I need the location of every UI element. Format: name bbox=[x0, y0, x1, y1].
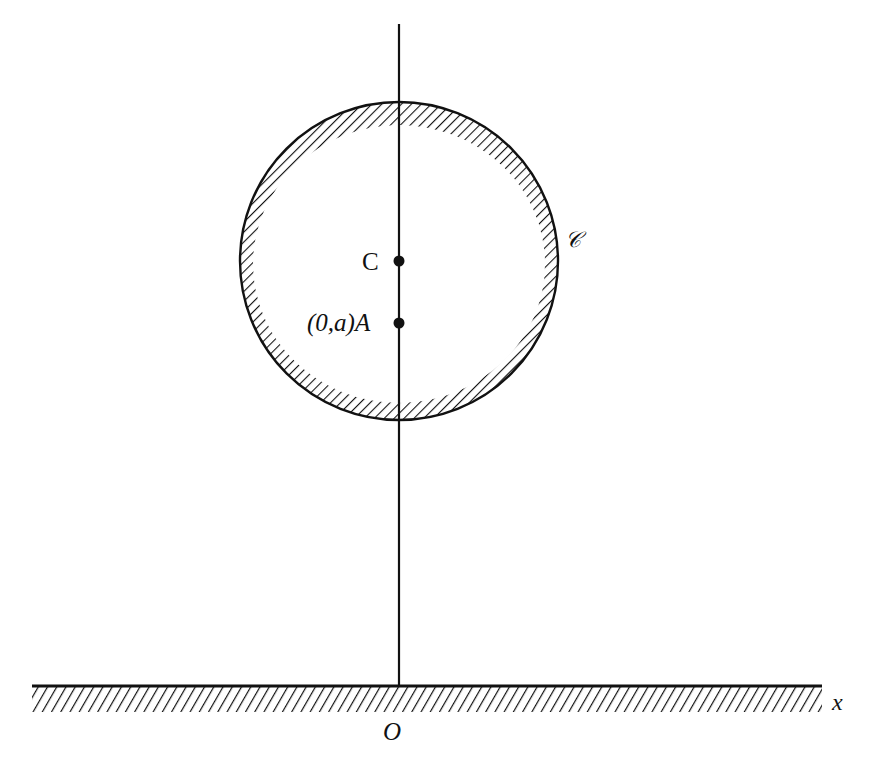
point-a-dot bbox=[394, 318, 405, 329]
label-point-a: (0,a)A bbox=[307, 309, 371, 337]
label-center-c: C bbox=[362, 248, 379, 275]
label-x-axis: x bbox=[831, 689, 843, 715]
point-c-dot bbox=[394, 256, 405, 267]
label-origin: O bbox=[383, 718, 401, 745]
diagram-canvas: C (0,a)A 𝒞 x O bbox=[0, 0, 877, 781]
label-curve: 𝒞 bbox=[565, 227, 587, 252]
label-point-a-name: A bbox=[353, 309, 371, 336]
ground-boundary bbox=[32, 686, 822, 712]
label-point-a-coord: (0,a) bbox=[307, 309, 355, 337]
